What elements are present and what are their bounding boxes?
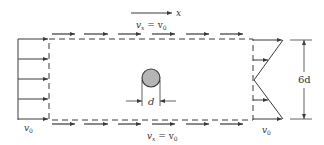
inlet-velocity-profile xyxy=(18,39,48,120)
height-dimension-label: 6d xyxy=(298,74,311,85)
flow-diagram: x vx = v0 v0 d vx = xyxy=(0,0,324,145)
diameter-label: d xyxy=(148,96,154,107)
top-velocity-label: vx = v0 xyxy=(136,20,167,31)
outlet-velocity-profile xyxy=(253,40,283,119)
bottom-velocity-label: vx = v0 xyxy=(147,131,178,142)
x-axis-label: x xyxy=(176,8,181,18)
inlet-velocity-label: v0 xyxy=(24,123,33,134)
outlet-velocity-label: v0 xyxy=(262,125,271,136)
cylinder xyxy=(142,69,160,87)
